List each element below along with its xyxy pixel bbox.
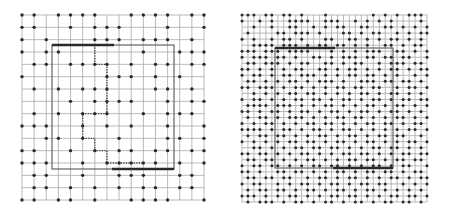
site-dot <box>414 182 417 185</box>
site-dot <box>300 20 303 23</box>
site-dot <box>246 50 249 53</box>
site-dot <box>420 134 423 137</box>
site-dot <box>372 32 375 35</box>
site-dot <box>390 68 393 71</box>
site-dot <box>264 50 267 53</box>
site-dot <box>270 164 273 167</box>
site-dot <box>348 146 351 149</box>
site-dot <box>354 44 357 47</box>
site-dot <box>81 124 84 127</box>
site-dot <box>276 56 279 59</box>
site-dot <box>330 152 333 155</box>
site-dot <box>246 152 249 155</box>
site-dot <box>420 62 423 65</box>
site-dot <box>390 146 393 149</box>
site-dot <box>366 50 369 53</box>
site-dot <box>396 188 399 191</box>
left-lattice-diagram <box>0 0 225 211</box>
site-dot <box>390 170 393 173</box>
site-dot <box>408 140 411 143</box>
site-dot <box>166 26 169 29</box>
site-dot <box>288 104 291 107</box>
site-dot <box>324 68 327 71</box>
site-dot <box>312 164 315 167</box>
site-dot <box>246 62 249 65</box>
site-dot <box>408 56 411 59</box>
site-dot <box>372 170 375 173</box>
site-dot <box>190 87 193 90</box>
site-dot <box>354 134 357 137</box>
site-dot <box>258 74 261 77</box>
site-dot <box>294 86 297 89</box>
site-dot <box>288 20 291 23</box>
site-dot <box>190 38 193 41</box>
site-dot <box>282 176 285 179</box>
site-dot <box>318 56 321 59</box>
site-dot <box>294 26 297 29</box>
site-dot <box>366 110 369 113</box>
site-dot <box>300 146 303 149</box>
site-dot <box>354 176 357 179</box>
site-dot <box>154 87 157 90</box>
site-dot <box>330 146 333 149</box>
site-dot <box>264 152 267 155</box>
site-dot <box>414 140 417 143</box>
site-dot <box>306 188 309 191</box>
site-dot <box>270 128 273 131</box>
site-dot <box>372 146 375 149</box>
site-dot <box>390 56 393 59</box>
site-dot <box>246 128 249 131</box>
site-dot <box>360 201 363 204</box>
site-dot <box>426 86 429 89</box>
site-dot <box>81 112 84 115</box>
site-dot <box>312 188 315 191</box>
site-dot <box>306 176 309 179</box>
site-dot <box>190 186 193 189</box>
site-dot <box>288 110 291 113</box>
site-dot <box>396 86 399 89</box>
site-dot <box>294 188 297 191</box>
site-dot <box>414 170 417 173</box>
site-dot <box>336 110 339 113</box>
site-dot <box>348 182 351 185</box>
site-dot <box>252 104 255 107</box>
site-dot <box>202 161 205 164</box>
site-dot <box>252 74 255 77</box>
site-dot <box>414 194 417 197</box>
site-dot <box>246 80 249 83</box>
site-dot <box>270 14 273 17</box>
site-dot <box>178 50 181 53</box>
site-dot <box>282 98 285 101</box>
site-dot <box>312 128 315 131</box>
site-dot <box>93 87 96 90</box>
site-dot <box>288 116 291 119</box>
site-dot <box>20 13 23 16</box>
site-dot <box>45 161 48 164</box>
site-dot <box>258 44 261 47</box>
site-dot <box>396 14 399 17</box>
site-dot <box>282 146 285 149</box>
site-dot <box>270 122 273 125</box>
site-dot <box>93 26 96 29</box>
site-dot <box>420 98 423 101</box>
site-dot <box>282 56 285 59</box>
site-dot <box>69 100 72 103</box>
site-dot <box>402 152 405 155</box>
site-dot <box>294 158 297 161</box>
site-dot <box>366 188 369 191</box>
site-dot <box>324 201 327 204</box>
site-dot <box>330 98 333 101</box>
site-dot <box>372 158 375 161</box>
site-dot <box>420 122 423 125</box>
site-dot <box>300 74 303 77</box>
site-dot <box>258 56 261 59</box>
site-dot <box>426 50 429 53</box>
site-dot <box>372 74 375 77</box>
site-dot <box>130 198 133 201</box>
site-dot <box>366 56 369 59</box>
site-dot <box>117 161 120 164</box>
site-dot <box>384 182 387 185</box>
site-dot <box>336 140 339 143</box>
site-dot <box>366 122 369 125</box>
site-dot <box>246 32 249 35</box>
